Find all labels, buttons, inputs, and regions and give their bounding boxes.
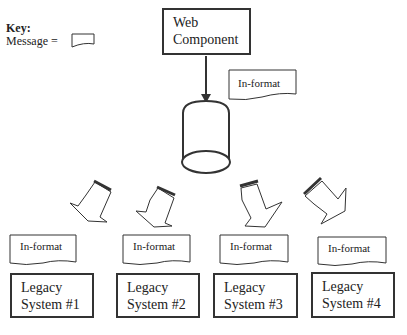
message-label-4: In-format <box>328 242 370 254</box>
block-arrow-1 <box>70 181 111 222</box>
top-message-label: In-format <box>238 77 280 89</box>
web-component-line2: Component <box>173 31 249 48</box>
block-arrow-3 <box>240 181 282 227</box>
legacy-system-4-line2: System #4 <box>322 295 393 312</box>
block-arrow-2 <box>136 187 175 227</box>
legacy-system-3-line1: Legacy <box>224 279 296 296</box>
legacy-system-1-box: Legacy System #1 <box>10 273 94 318</box>
legacy-system-1-line1: Legacy <box>21 279 92 296</box>
web-component-box: Web Component <box>162 8 251 55</box>
legacy-system-3-line2: System #3 <box>224 296 296 313</box>
web-component-line1: Web <box>173 14 249 31</box>
legacy-system-1-line2: System #1 <box>21 296 92 313</box>
legacy-system-2-box: Legacy System #2 <box>116 273 200 318</box>
legacy-system-4-line1: Legacy <box>322 278 393 295</box>
legacy-system-4-box: Legacy System #4 <box>311 272 395 318</box>
legacy-system-3-box: Legacy System #3 <box>213 273 298 318</box>
message-label-2: In-format <box>133 240 175 252</box>
key-label: Message = <box>6 34 58 49</box>
block-arrow-4 <box>304 178 346 224</box>
legacy-system-2-line2: System #2 <box>127 296 198 313</box>
message-label-1: In-format <box>20 240 62 252</box>
message-key-icon <box>72 34 94 47</box>
legacy-system-2-line1: Legacy <box>127 279 198 296</box>
message-label-3: In-format <box>230 240 272 252</box>
